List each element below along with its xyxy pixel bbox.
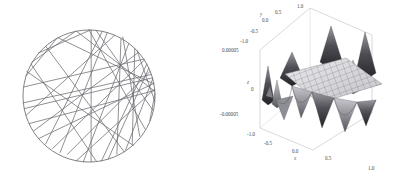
z-axis-name: z xyxy=(246,79,249,85)
chords-chart-panel xyxy=(0,0,200,178)
x-tick-label: 0.5 xyxy=(325,155,332,161)
chord-line xyxy=(89,30,145,129)
chord-line xyxy=(26,38,57,76)
box-edge xyxy=(310,8,372,35)
y-tick-label: 0.0 xyxy=(262,17,269,23)
y-tick-label: 0.5 xyxy=(275,9,282,15)
surface-mesh xyxy=(262,26,390,132)
z-tick-label: -0.00005 xyxy=(220,111,239,117)
surface-valley xyxy=(357,100,376,126)
surface-spike xyxy=(262,66,274,105)
surface-valley xyxy=(276,96,293,120)
chord-line xyxy=(27,72,134,146)
x-tick-label: -1.0 xyxy=(247,131,256,137)
box-edge xyxy=(260,8,310,50)
y-tick-label: 1.0 xyxy=(297,3,304,9)
chord-line xyxy=(60,33,107,153)
chords-svg xyxy=(0,0,200,178)
box-edge xyxy=(260,128,313,150)
z-tick-label: 0.00005 xyxy=(222,47,239,53)
x-tick-label: 1.0 xyxy=(368,165,375,171)
y-tick-label: -0.5 xyxy=(250,28,259,34)
chord-line xyxy=(32,31,76,62)
y-tick-label: -1.0 xyxy=(240,38,249,44)
surface-valley xyxy=(312,92,334,128)
x-tick-label: 0.0 xyxy=(292,148,299,154)
figure-container: -1.0 -0.5 0.0 0.5 1.0 y 0.00005 0 -0.000… xyxy=(0,0,401,178)
chord-lines xyxy=(23,30,155,162)
chord-line xyxy=(23,75,151,103)
surface-chart-panel: -1.0 -0.5 0.0 0.5 1.0 y 0.00005 0 -0.000… xyxy=(200,0,401,178)
x-axis-name: x xyxy=(293,155,297,161)
chord-line xyxy=(83,44,128,162)
z-tick-label: 0 xyxy=(251,86,254,92)
x-tick-label: -0.5 xyxy=(264,140,273,146)
surface-svg: -1.0 -0.5 0.0 0.5 1.0 y 0.00005 0 -0.000… xyxy=(200,0,401,178)
